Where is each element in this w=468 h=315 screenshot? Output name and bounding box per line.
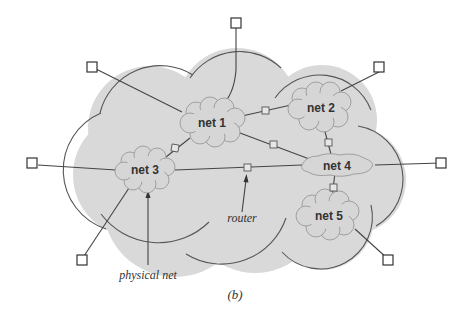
net-3-label: net 3 (131, 163, 159, 177)
router-net1-net3-icon[interactable] (171, 144, 179, 152)
router-net4-net5-icon[interactable] (330, 184, 337, 191)
net-4-label: net 4 (323, 159, 351, 173)
router-net1-net4-icon[interactable] (270, 141, 277, 148)
router-net2-net4-icon[interactable] (325, 139, 332, 146)
net-2-label: net 2 (307, 101, 335, 115)
figure-caption: (b) (227, 287, 242, 302)
host-net4-icon[interactable] (436, 158, 446, 168)
router-net3-net4-icon[interactable] (244, 164, 251, 171)
net-1-label: net 1 (198, 116, 226, 130)
host-net1-a-icon[interactable] (87, 62, 97, 72)
host-net3-a-icon[interactable] (27, 158, 37, 168)
physical-net-annotation: physical net (118, 268, 177, 282)
host-net5-icon[interactable] (383, 255, 393, 265)
host-net1-b-icon[interactable] (231, 18, 241, 28)
router-annotation: router (227, 211, 257, 225)
host-net2-icon[interactable] (374, 62, 384, 72)
internet-diagram: net 1 net 2 net 3 net 4 net 5 router phy… (0, 0, 468, 315)
net-5-label: net 5 (315, 209, 343, 223)
host-net3-b-icon[interactable] (77, 255, 87, 265)
router-net1-net2-icon[interactable] (262, 107, 269, 114)
